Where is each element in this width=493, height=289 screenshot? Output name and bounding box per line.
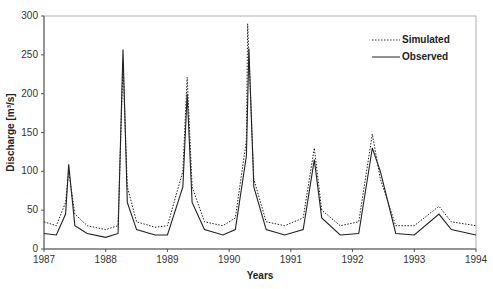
y-axis-title: Discharge [m³/s] [5, 93, 16, 171]
x-tick-label: 1992 [341, 254, 364, 265]
y-tick-label: 300 [21, 10, 38, 21]
x-tick-label: 1989 [156, 254, 179, 265]
discharge-chart: 0501001502002503001987198819891990199119… [0, 0, 493, 289]
y-tick-label: 150 [21, 127, 38, 138]
x-tick-label: 1993 [403, 254, 426, 265]
x-tick-label: 1994 [465, 254, 488, 265]
series-observed [44, 49, 476, 238]
x-axis-title: Years [247, 270, 274, 281]
y-tick-label: 100 [21, 165, 38, 176]
legend-simulated-label: Simulated [402, 34, 450, 45]
chart-container: 0501001502002503001987198819891990199119… [0, 0, 493, 289]
x-tick-label: 1988 [95, 254, 118, 265]
y-tick-label: 50 [27, 204, 39, 215]
y-tick-label: 200 [21, 88, 38, 99]
x-tick-label: 1991 [280, 254, 303, 265]
x-tick-label: 1990 [218, 254, 241, 265]
y-tick-label: 250 [21, 49, 38, 60]
x-tick-label: 1987 [33, 254, 56, 265]
legend-observed-label: Observed [402, 51, 448, 62]
y-tick-label: 0 [32, 243, 38, 254]
